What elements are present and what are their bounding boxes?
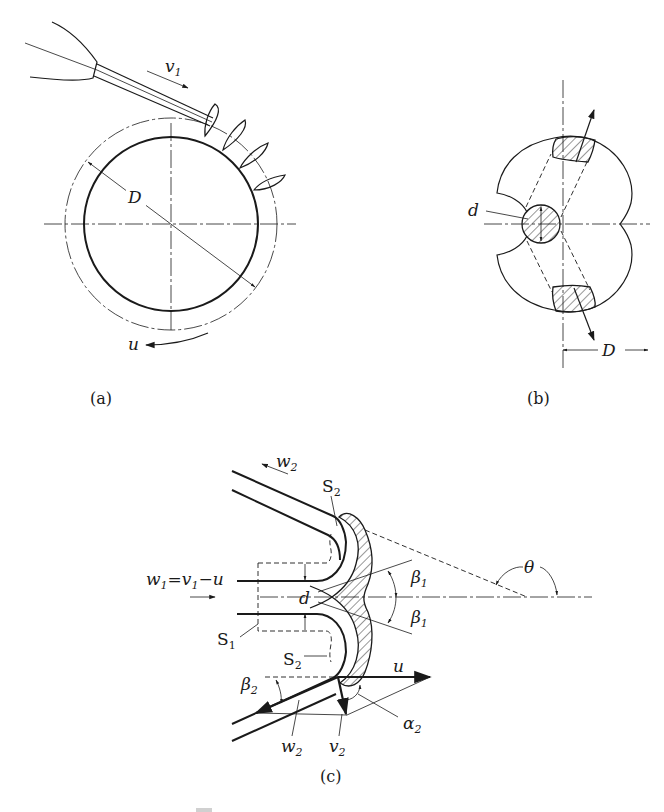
- s1-label: S1: [217, 629, 236, 652]
- streamtube-upper: [258, 534, 331, 563]
- hatched-section-bottom: [553, 286, 596, 312]
- beta1-top-label: β1: [410, 567, 428, 590]
- alpha2-arc: [343, 685, 360, 700]
- dash-3: [527, 241, 552, 292]
- d-label: d: [299, 588, 310, 608]
- jet-upper: [97, 64, 213, 118]
- alpha2-leader: [358, 694, 398, 717]
- bucket-3: [240, 143, 268, 168]
- panel-b: d D (b): [468, 80, 650, 408]
- v1-label: v1: [165, 56, 182, 79]
- diameter-label-b: D: [601, 340, 616, 360]
- triangle-side: [347, 677, 430, 715]
- alpha2-label: α2: [403, 713, 421, 736]
- theta-arc-left: [496, 567, 523, 585]
- w2-vector: [256, 677, 338, 713]
- panel-a: v1 D u (a): [25, 22, 296, 408]
- caption-b: (b): [527, 389, 550, 408]
- nozzle-body: [30, 22, 97, 80]
- beta2-label: β2: [240, 674, 258, 697]
- bucket-1: [205, 104, 219, 136]
- rotation-label: u: [128, 334, 139, 354]
- caption-a: (a): [90, 389, 112, 408]
- beta1-arc-bottom: [388, 597, 396, 623]
- triangle-base: [256, 713, 347, 715]
- nozzle-axis: [25, 43, 97, 70]
- jet-center: [97, 70, 212, 122]
- beta1-arc-top: [388, 571, 396, 597]
- beta1-bottom-label: β1: [410, 607, 428, 630]
- bucket-hatched-section: [332, 514, 372, 686]
- caption-c: (c): [320, 767, 341, 786]
- s2-top-label: S2: [322, 476, 341, 499]
- d-leader: [486, 211, 528, 219]
- jet-diameter-label: d: [468, 200, 479, 220]
- upper-inner-wall-top: [232, 490, 340, 560]
- u-label: u: [393, 656, 404, 676]
- s2-top-leader: [331, 496, 337, 526]
- dash-4: [561, 231, 590, 290]
- jet-lower: [94, 76, 210, 126]
- panel-c: d β1 β1 θ w2 S2 w1=v1−u S1 S2: [146, 451, 592, 786]
- bucket-4: [254, 175, 285, 190]
- theta-extension: [365, 530, 527, 597]
- s2-bottom-label: S2: [283, 649, 302, 672]
- theta-arc-right: [540, 567, 557, 595]
- w2-top-label: w2: [276, 451, 298, 474]
- s1-leader: [240, 624, 258, 637]
- caption-faint-mark: [196, 808, 212, 812]
- w1-equation: w1=v1−u: [146, 569, 224, 592]
- diameter-dimension: [88, 162, 255, 287]
- dash-1: [526, 154, 551, 207]
- w2-bottom-label: w2: [281, 736, 303, 759]
- theta-label: θ: [524, 557, 534, 577]
- dash-2: [561, 162, 587, 217]
- rotation-arrow: [146, 333, 208, 345]
- streamtube-lower: [258, 563, 331, 662]
- hatched-section-top: [553, 136, 595, 162]
- w2-bottom-leader: [292, 700, 299, 736]
- diameter-label: D: [127, 187, 142, 207]
- beta2-arc: [276, 680, 281, 703]
- v2-label: v2: [329, 736, 346, 759]
- v2-bottom-leader: [339, 714, 342, 736]
- figure-canvas: v1 D u (a): [0, 0, 664, 812]
